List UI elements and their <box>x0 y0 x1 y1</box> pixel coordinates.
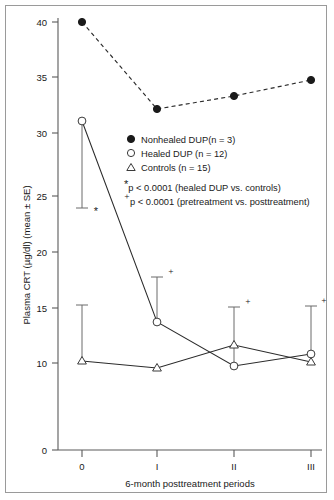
y-axis-title: Plasma CRT (µg/dl) (mean ± SE) <box>21 185 32 324</box>
legend-label-nonhealed-dup: Nonhealed DUP(n = 3) <box>141 135 235 145</box>
y-tick-label-15: 15 <box>36 303 47 314</box>
significance-asterisk-period-0: * <box>94 205 99 217</box>
chart-footnotes: *p < 0.0001 (healed DUP vs. controls) ⁺p… <box>124 178 310 207</box>
y-tick-labels: 40 35 30 25 20 15 10 0 <box>36 17 47 456</box>
data-point-healed-I <box>153 318 161 326</box>
data-point-controls-0 <box>78 357 87 365</box>
significance-dagger-period-III: ⁺ <box>321 296 327 308</box>
y-tick-label-35: 35 <box>36 72 47 83</box>
x-tick-labels: 0 I II III <box>79 461 315 472</box>
data-point-healed-II <box>230 362 238 370</box>
x-tick-label-II: II <box>231 461 236 472</box>
error-bars-controls <box>76 305 88 361</box>
chart-plot-area: 40 35 30 25 20 15 10 0 0 I II III 6-mont… <box>0 0 334 500</box>
y-tick-label-10: 10 <box>36 358 47 369</box>
footnote-1-text: p < 0.0001 (healed DUP vs. controls) <box>128 183 281 193</box>
legend-marker-filled-circle-icon <box>127 135 134 142</box>
footnote-line-2: ⁺p < 0.0001 (pretreatment vs. posttreatm… <box>124 192 310 207</box>
x-axis-title: 6-month posttreatment periods <box>125 478 255 489</box>
legend-label-healed-dup: Healed DUP (n = 12) <box>141 149 227 159</box>
y-tick-label-25: 25 <box>36 191 47 202</box>
y-tick-label-20: 20 <box>36 247 47 258</box>
significance-dagger-period-II: ⁺ <box>245 297 251 309</box>
significance-dagger-period-I: ⁺ <box>168 267 174 279</box>
figure-container: 40 35 30 25 20 15 10 0 0 I II III 6-mont… <box>0 0 334 500</box>
legend-label-controls: Controls (n = 15) <box>141 163 211 173</box>
series-line-nonhealed-dup <box>82 22 311 109</box>
legend-marker-open-circle-icon <box>127 149 134 156</box>
y-tick-label-30: 30 <box>36 128 47 139</box>
y-tick-label-40: 40 <box>36 17 47 28</box>
legend-marker-open-triangle-icon <box>127 164 135 171</box>
significance-marks: * ⁺ ⁺ ⁺ <box>94 205 327 309</box>
data-point-nonhealed-III <box>307 76 314 83</box>
chart-legend: Nonhealed DUP(n = 3) Healed DUP (n = 12)… <box>127 135 236 173</box>
footnote-2-text: p < 0.0001 (pretreatment vs. posttreatme… <box>130 197 310 207</box>
data-point-healed-0 <box>78 117 86 125</box>
series-nonhealed-dup <box>78 18 314 112</box>
x-tick-label-III: III <box>307 461 315 472</box>
x-tick-label-0: 0 <box>79 461 84 472</box>
x-tick-label-I: I <box>156 461 159 472</box>
data-point-nonhealed-II <box>230 92 237 99</box>
data-point-controls-II <box>230 341 239 349</box>
data-point-nonhealed-0 <box>78 18 85 25</box>
y-tick-label-0: 0 <box>42 445 47 456</box>
data-point-nonhealed-I <box>153 105 160 112</box>
x-tick-marks <box>82 450 311 457</box>
series-controls <box>76 305 315 371</box>
series-line-controls <box>82 345 311 368</box>
y-tick-marks <box>52 22 58 450</box>
axis-lines <box>58 18 322 450</box>
footnote-line-1: *p < 0.0001 (healed DUP vs. controls) <box>124 178 281 193</box>
